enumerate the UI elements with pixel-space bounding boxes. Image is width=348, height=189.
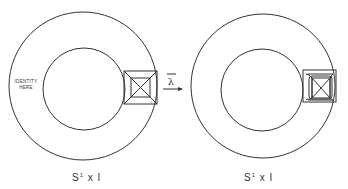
identity-label: IDENTITY: [15, 79, 38, 84]
figure-canvas: IDENTITY HERE S1 x I λ S1 x I: [0, 0, 348, 189]
right-square-box: [303, 70, 336, 102]
left-annulus: IDENTITY HERE S1 x I: [9, 12, 157, 183]
lambda-label: λ: [168, 76, 175, 87]
here-label: HERE: [19, 85, 33, 90]
arrow-head-icon: [178, 87, 183, 91]
left-inner-circle: [43, 48, 125, 130]
right-caption: S1 x I: [244, 172, 273, 183]
map-arrow: λ: [163, 74, 183, 91]
right-inner-circle: [221, 49, 303, 131]
right-outer-circle: [191, 14, 335, 158]
left-square-box: [124, 71, 157, 104]
right-annulus: S1 x I: [191, 14, 336, 183]
left-caption: S1 x I: [72, 172, 101, 183]
